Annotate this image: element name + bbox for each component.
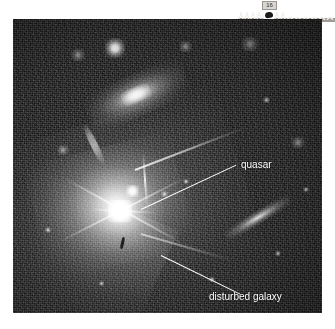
faint-object bbox=[71, 49, 85, 61]
faint-object bbox=[179, 41, 192, 52]
astronomical-image: quasar disturbed galaxy bbox=[13, 19, 322, 313]
point-source bbox=[303, 187, 309, 192]
widget-label-box: 16 bbox=[262, 1, 277, 10]
faint-object bbox=[291, 137, 305, 148]
point-source bbox=[183, 179, 189, 184]
disturbed-galaxy-label: disturbed galaxy bbox=[209, 291, 282, 303]
faint-object bbox=[57, 145, 69, 155]
quasar-core bbox=[108, 200, 132, 222]
quasar-companion-knot bbox=[126, 185, 139, 197]
figure-page: 16 bbox=[0, 0, 335, 329]
faint-object bbox=[241, 37, 259, 51]
quasar-label: quasar bbox=[241, 159, 272, 171]
foreground-star bbox=[105, 38, 125, 58]
point-source bbox=[99, 281, 104, 286]
point-source bbox=[45, 227, 51, 233]
point-source bbox=[275, 251, 281, 256]
point-source bbox=[263, 97, 270, 103]
